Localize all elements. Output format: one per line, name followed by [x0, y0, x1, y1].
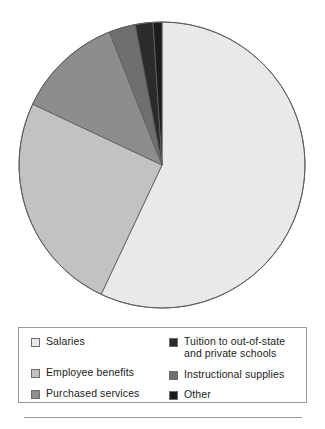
legend-label-salaries: Salaries [46, 336, 85, 348]
legend-item-instructional-supplies[interactable]: Instructional supplies [169, 369, 307, 381]
legend-swatch-purchased-services-icon [31, 390, 40, 399]
legend-item-salaries[interactable]: Salaries [31, 336, 171, 348]
legend-item-tuition[interactable]: Tuition to out-of-state and private scho… [169, 336, 307, 360]
legend-label-instructional-supplies: Instructional supplies [184, 369, 284, 381]
pie-chart-figure: Salaries Employee benefits Purchased ser… [0, 0, 325, 429]
legend-swatch-other-icon [169, 391, 178, 400]
legend-label-purchased-services: Purchased services [46, 388, 139, 400]
legend-swatch-salaries-icon [31, 338, 40, 347]
legend-column-left: Salaries Employee benefits Purchased ser… [31, 336, 171, 407]
legend-item-employee-benefits[interactable]: Employee benefits [31, 367, 171, 379]
legend-label-employee-benefits: Employee benefits [46, 367, 134, 379]
bottom-divider [24, 417, 302, 418]
legend-swatch-instructional-supplies-icon [169, 371, 178, 380]
legend-label-other: Other [184, 389, 211, 401]
pie-slice-group [19, 22, 305, 308]
legend-grid: Salaries Employee benefits Purchased ser… [19, 328, 306, 402]
legend-item-other[interactable]: Other [169, 389, 307, 401]
legend-item-purchased-services[interactable]: Purchased services [31, 388, 171, 400]
legend-label-tuition: Tuition to out-of-state and private scho… [184, 336, 285, 360]
legend-swatch-tuition-icon [169, 338, 178, 347]
pie-chart-svg [0, 0, 325, 320]
legend-swatch-employee-benefits-icon [31, 369, 40, 378]
legend-column-right: Tuition to out-of-state and private scho… [169, 336, 307, 409]
legend: Salaries Employee benefits Purchased ser… [18, 327, 307, 403]
pie-chart-plot-area [0, 0, 325, 320]
